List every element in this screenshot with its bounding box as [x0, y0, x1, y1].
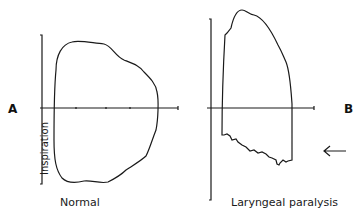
panel-b-letter: B: [344, 102, 353, 116]
panel-b-paralysis-loop: [222, 10, 292, 165]
panel-a-horizontal-axis: [40, 106, 178, 110]
panel-b: [207, 10, 346, 200]
panel-b-caption: Laryngeal paralysis: [231, 196, 338, 209]
panel-a-normal-loop: [54, 41, 158, 182]
flow-volume-loops-diagram: [0, 0, 364, 218]
arrow-icon: [324, 146, 346, 156]
panel-a: [40, 35, 178, 184]
panel-a-letter: A: [8, 102, 17, 116]
panel-b-horizontal-axis: [207, 106, 314, 110]
inspiration-axis-label: Inspiration: [39, 122, 50, 175]
panel-b-vertical-axis: [209, 19, 211, 200]
panel-a-caption: Normal: [60, 196, 100, 209]
